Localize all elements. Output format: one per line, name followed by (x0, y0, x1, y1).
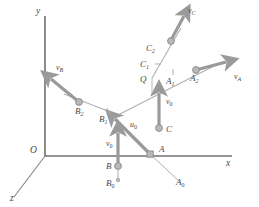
point-label-A1: A1 (165, 76, 175, 87)
vector-vb-arrow (51, 79, 79, 102)
construction-rays (64, 28, 214, 183)
vector-va-arrow (196, 62, 226, 70)
vector-label-vc: vC (188, 6, 197, 16)
point-labels: Q C C1 C2 A A0 A1 A2 B B0 B1 B2 (75, 43, 199, 189)
point-label-C1: C1 (140, 59, 149, 70)
node-B (115, 163, 122, 170)
vector-labels: vC vA vB u0 v0 v0 (56, 6, 242, 149)
point-label-A: A (158, 144, 165, 154)
point-label-B0: B0 (106, 178, 115, 189)
node-A (147, 151, 153, 157)
node-B0 (116, 178, 119, 181)
ray-a (118, 66, 214, 115)
axis-label-y: y (35, 6, 41, 16)
point-label-B2: B2 (75, 106, 84, 117)
coordinate-axes (14, 16, 232, 197)
point-nodes (76, 38, 200, 182)
ray-ticks (107, 64, 173, 114)
vector-label-va: vA (234, 72, 242, 82)
point-label-C2: C2 (146, 43, 155, 54)
axis-label-z: z (9, 193, 14, 203)
node-C2 (168, 38, 175, 45)
point-label-C: C (166, 124, 173, 134)
vector-label-u0: u0 (130, 120, 137, 130)
axis-label-origin: O (30, 145, 37, 155)
node-B2 (76, 99, 83, 106)
z-axis-line (14, 156, 45, 197)
point-label-B: B (106, 161, 112, 171)
axis-labels: y x z O (9, 6, 231, 203)
node-C (156, 125, 163, 132)
vector-label-v0-b: v0 (106, 139, 113, 149)
vector-label-v0-c: v0 (166, 97, 173, 107)
point-label-B1: B1 (99, 114, 108, 125)
kinematics-figure: y x z O Q C C1 C2 A A0 A1 A2 B B0 B1 B2 … (0, 0, 259, 207)
ray-c (152, 28, 181, 78)
point-label-Q: Q (140, 74, 147, 84)
point-label-A0: A0 (175, 177, 185, 188)
diagram-canvas: y x z O Q C C1 C2 A A0 A1 A2 B B0 B1 B2 … (0, 0, 259, 207)
axis-label-x: x (225, 158, 231, 168)
velocity-arrows (51, 16, 226, 166)
vector-label-vb: vB (56, 63, 64, 73)
